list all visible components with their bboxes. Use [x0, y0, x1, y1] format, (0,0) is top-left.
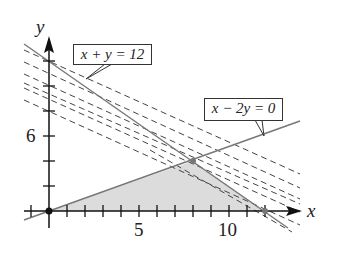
vertex-point-8-4: [190, 158, 196, 164]
origin-point: [46, 208, 53, 215]
vertex-point-12-0: [262, 208, 268, 214]
x-tick-label-10: 10: [218, 219, 237, 241]
y-tick-label-6: 6: [26, 125, 36, 147]
x-axis-label: x: [307, 200, 315, 222]
callout-pointer-1: [86, 64, 112, 79]
y-axis-label: y: [36, 16, 44, 38]
x-tick-label-5: 5: [134, 219, 144, 241]
feasible-region: [49, 161, 265, 211]
callout-pointer-2: [255, 120, 264, 136]
label-box-x-plus-y-12: x + y = 12: [73, 44, 152, 65]
label-box-x-minus-2y-0: x − 2y = 0: [204, 98, 283, 121]
label-text: x − 2y = 0: [212, 100, 276, 116]
linear-programming-graph: [0, 0, 338, 262]
label-text: x + y = 12: [81, 46, 145, 62]
